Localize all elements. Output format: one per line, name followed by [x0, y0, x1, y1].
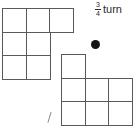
grid-cell: [26, 55, 51, 80]
grid-cell: [61, 54, 86, 79]
grid-cell: [26, 32, 51, 57]
diagonal-tick-mark: [47, 112, 51, 123]
turn-word: turn: [103, 4, 122, 15]
fraction-three-quarters: 3 4: [95, 1, 101, 18]
rotation-diagram: 3 4 turn: [0, 0, 138, 132]
grid-cell: [2, 8, 27, 33]
grid-cell: [108, 78, 133, 103]
grid-cell: [85, 101, 110, 126]
grid-cell: [85, 78, 110, 103]
grid-cell: [61, 101, 86, 126]
grid-cell: [49, 8, 74, 33]
grid-cell: [26, 8, 51, 33]
rotation-point-dot: [91, 40, 100, 49]
grid-cell: [2, 55, 27, 80]
fraction-numerator: 3: [96, 1, 100, 8]
rotated-polyomino: [61, 54, 137, 132]
grid-cell: [2, 32, 27, 57]
turn-label: 3 4 turn: [95, 1, 122, 18]
grid-cell: [108, 101, 133, 126]
grid-cell: [61, 78, 86, 103]
fraction-denominator: 4: [96, 10, 100, 17]
